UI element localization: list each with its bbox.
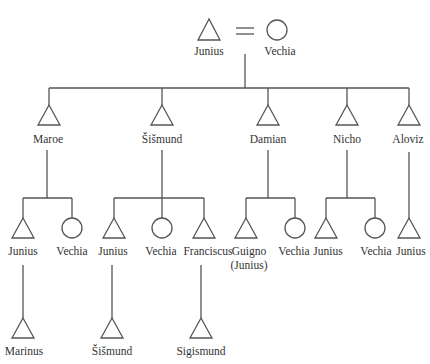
- person-label: Vechia: [264, 44, 295, 58]
- person-label: Guigno: [232, 244, 267, 258]
- triangle-icon: [101, 318, 123, 338]
- triangle-icon: [190, 318, 212, 338]
- person-label: Vechia: [278, 244, 309, 258]
- person-label: Sigismund: [176, 344, 225, 358]
- triangle-icon: [257, 105, 279, 125]
- person-label: Junius: [8, 244, 37, 258]
- person-label: Vechia: [360, 244, 391, 258]
- triangle-icon: [12, 318, 34, 338]
- person-label: Junius: [194, 44, 223, 58]
- triangle-icon: [198, 19, 220, 40]
- triangle-icon: [193, 218, 215, 238]
- person-label: Šišmund: [142, 132, 182, 146]
- circle-icon: [365, 218, 385, 238]
- circle-icon: [152, 218, 172, 238]
- person-label: Nicho: [333, 132, 361, 146]
- person-label: Marinus: [5, 344, 43, 358]
- circle-icon: [62, 218, 82, 238]
- person-label: Junius: [313, 244, 342, 258]
- triangle-icon: [103, 218, 125, 238]
- circle-icon: [267, 20, 287, 40]
- person-label: Franciscus: [183, 244, 232, 258]
- triangle-icon: [235, 218, 257, 238]
- triangle-icon: [336, 105, 358, 125]
- triangle-icon: [398, 218, 420, 238]
- person-label: Šišmund: [92, 344, 132, 358]
- triangle-icon: [398, 105, 420, 125]
- person-alias-label: (Junius): [230, 258, 267, 272]
- person-label: Maroe: [33, 132, 63, 146]
- triangle-icon: [151, 105, 173, 125]
- person-label: Aloviz: [392, 132, 423, 146]
- person-label: Junius: [98, 244, 127, 258]
- triangle-icon: [12, 218, 34, 238]
- person-label: Vechia: [145, 244, 176, 258]
- person-label: Damian: [250, 132, 286, 146]
- triangle-icon: [315, 218, 337, 238]
- person-label: Junius: [396, 244, 425, 258]
- triangle-icon: [38, 105, 60, 125]
- circle-icon: [285, 218, 305, 238]
- person-label: Vechia: [56, 244, 87, 258]
